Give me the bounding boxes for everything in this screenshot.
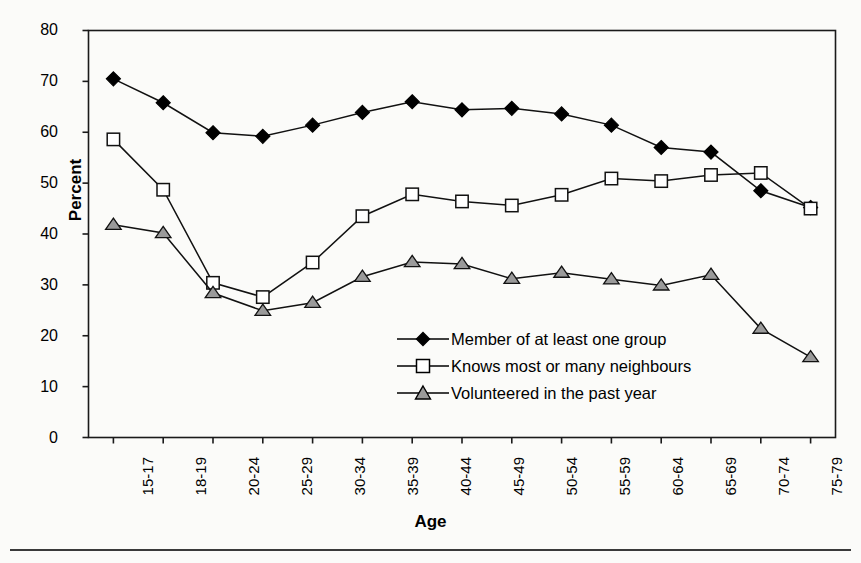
plot-area — [0, 0, 861, 563]
marker-open-square-icon — [506, 199, 518, 211]
marker-open-square-icon — [356, 210, 368, 222]
x-tick-marks — [113, 438, 810, 444]
marker-filled-diamond-icon — [505, 101, 519, 115]
marker-open-square-icon — [555, 189, 567, 201]
marker-filled-diamond-icon — [455, 103, 469, 117]
marker-open-square-icon — [755, 167, 767, 179]
marker-open-square-icon — [306, 256, 318, 268]
marker-open-square-icon — [406, 188, 418, 200]
legend-item-member: Member of at least one group — [395, 325, 725, 352]
marker-open-square-icon — [655, 175, 667, 187]
chart-legend: Member of at least one group Knows most … — [395, 325, 725, 406]
marker-open-square-icon — [705, 169, 717, 181]
bottom-divider — [10, 549, 851, 551]
marker-open-square-icon — [605, 172, 617, 184]
marker-filled-diamond-icon — [555, 107, 569, 121]
marker-filled-diamond-icon — [355, 105, 369, 119]
marker-grey-triangle-icon — [404, 255, 420, 266]
marker-grey-triangle-icon — [305, 296, 321, 307]
chart-figure: Percent 80 70 60 50 40 30 20 10 0 15-17 … — [0, 0, 861, 563]
legend-label-volunteered: Volunteered in the past year — [451, 383, 656, 403]
legend-label-neighbours: Knows most or many neighbours — [451, 356, 691, 376]
marker-grey-triangle-icon — [554, 266, 570, 277]
marker-filled-diamond-icon — [306, 118, 320, 132]
marker-open-square-icon — [456, 195, 468, 207]
marker-filled-diamond-icon — [156, 96, 170, 110]
marker-open-square-icon — [157, 184, 169, 196]
marker-open-square-icon — [257, 291, 269, 303]
series-line — [113, 79, 810, 208]
marker-filled-diamond-icon — [704, 145, 718, 159]
marker-filled-diamond-icon — [654, 141, 668, 155]
marker-filled-diamond-icon — [106, 72, 120, 86]
marker-open-square-icon — [804, 202, 816, 214]
y-tick-marks — [83, 31, 89, 438]
legend-marker-filled-diamond-icon — [395, 329, 451, 349]
legend-label-member: Member of at least one group — [451, 329, 667, 349]
marker-filled-diamond-icon — [604, 118, 618, 132]
legend-item-volunteered: Volunteered in the past year — [395, 379, 725, 406]
marker-filled-diamond-icon — [256, 129, 270, 143]
legend-marker-open-square-icon — [395, 356, 451, 376]
legend-item-neighbours: Knows most or many neighbours — [395, 352, 725, 379]
marker-open-square-icon — [107, 133, 119, 145]
marker-grey-triangle-icon — [454, 257, 470, 268]
marker-grey-triangle-icon — [703, 268, 719, 279]
marker-filled-diamond-icon — [405, 95, 419, 109]
marker-grey-triangle-icon — [803, 351, 819, 362]
marker-grey-triangle-icon — [106, 218, 122, 229]
series-layer — [106, 72, 819, 362]
legend-marker-grey-triangle-icon — [395, 383, 451, 403]
series-line — [113, 139, 810, 297]
marker-filled-diamond-icon — [754, 184, 768, 198]
series-1 — [106, 72, 817, 215]
marker-filled-diamond-icon — [206, 126, 220, 140]
